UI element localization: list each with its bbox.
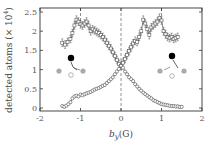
y-tick-label: 1 bbox=[32, 66, 37, 75]
right-level-diagram bbox=[157, 53, 186, 78]
data-point bbox=[148, 34, 151, 37]
black-dot-icon bbox=[68, 55, 74, 61]
data-point bbox=[180, 105, 183, 108]
open-circle-icon bbox=[170, 74, 175, 79]
data-point bbox=[140, 30, 143, 33]
open-circle-icon bbox=[69, 73, 74, 78]
y-tick-label: 2.5 bbox=[24, 8, 37, 17]
series-lower bbox=[61, 64, 184, 108]
y-tick-label: 1.5 bbox=[24, 46, 37, 55]
data-point bbox=[162, 30, 165, 33]
grey-dot-icon bbox=[80, 68, 85, 73]
arrow-icon bbox=[173, 60, 178, 68]
x-axis-label: by(G) bbox=[109, 129, 133, 141]
data-point bbox=[71, 32, 74, 35]
y-axis-label: detected atoms (× 104) bbox=[2, 7, 14, 113]
data-point bbox=[132, 80, 135, 83]
data-point bbox=[160, 19, 163, 22]
data-point bbox=[111, 76, 114, 79]
data-point bbox=[105, 41, 108, 44]
data-point bbox=[144, 22, 147, 25]
grey-dot-icon bbox=[157, 68, 162, 73]
data-point bbox=[69, 37, 72, 40]
x-tick-label: 2 bbox=[199, 114, 204, 123]
arrow-icon bbox=[164, 67, 170, 70]
left-level-diagram bbox=[56, 55, 85, 77]
grey-dot-icon bbox=[181, 68, 186, 73]
chart: -2-101200.511.522.5 by(G) detected atoms… bbox=[0, 0, 214, 148]
x-tick-label: -2 bbox=[36, 114, 44, 123]
x-tick-label: 1 bbox=[159, 114, 164, 123]
x-tick-label: -1 bbox=[77, 114, 85, 123]
black-dot-icon bbox=[169, 53, 175, 59]
data-point bbox=[138, 35, 141, 38]
data-point bbox=[176, 35, 179, 38]
grey-dot-icon bbox=[56, 68, 61, 73]
series-upper bbox=[61, 14, 179, 70]
x-tick-label: 0 bbox=[118, 114, 123, 123]
y-tick-label: 0 bbox=[32, 104, 37, 113]
data-point bbox=[117, 67, 120, 70]
y-tick-label: 0.5 bbox=[24, 85, 37, 94]
data-point bbox=[73, 24, 76, 27]
data-series bbox=[61, 14, 184, 109]
data-point bbox=[103, 38, 106, 41]
data-point bbox=[125, 73, 128, 76]
data-point bbox=[121, 66, 124, 69]
data-point bbox=[146, 28, 149, 31]
data-point bbox=[69, 101, 72, 104]
data-point bbox=[66, 40, 69, 43]
data-point bbox=[87, 24, 90, 27]
y-tick-label: 2 bbox=[32, 27, 37, 36]
